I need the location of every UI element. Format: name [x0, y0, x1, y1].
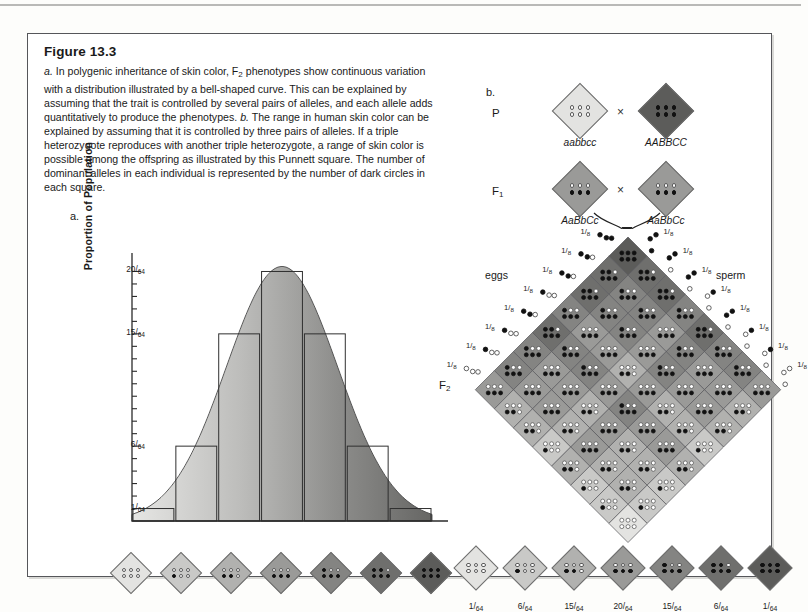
recessive-allele-dot [613, 385, 617, 389]
recessive-allele-dot [696, 404, 700, 408]
dominant-allele-dot [658, 448, 662, 452]
f1-generation-label: F1 [492, 185, 503, 199]
recessive-allele-dot [172, 568, 176, 572]
recessive-allele-dot [530, 569, 534, 573]
recessive-allele-dot [702, 404, 706, 408]
recessive-allele-dot [550, 404, 554, 408]
egg-gamete-allele-dot [590, 255, 595, 260]
recessive-allele-dot [632, 448, 636, 452]
figure-box: Figure 13.3 a. In polygenic inheritance … [27, 33, 772, 577]
recessive-allele-dot [626, 289, 630, 293]
recessive-allele-dot [683, 308, 687, 312]
recessive-allele-dot [515, 563, 519, 567]
dominant-allele-dot [626, 334, 630, 338]
dominant-allele-dot [524, 391, 528, 395]
dominant-allele-dot [379, 568, 383, 572]
punnett-square: 1/81/81/81/81/81/81/81/81/81/81/81/81/81… [453, 227, 803, 547]
recessive-allele-dot [690, 467, 694, 471]
recessive-allele-dot [575, 461, 579, 465]
phenotype-cell [116, 558, 146, 592]
dominant-allele-dot [690, 353, 694, 357]
dominant-allele-dot [511, 410, 515, 414]
dominant-allele-dot [621, 569, 625, 573]
dominant-allele-dot [620, 448, 624, 452]
f1-genotype-right: AaBbCc [630, 215, 702, 226]
recessive-allele-dot [136, 568, 140, 572]
dominant-allele-dot [664, 105, 669, 110]
recessive-allele-dot [582, 327, 586, 331]
phenotype-cell: 15/64 [558, 552, 590, 612]
recessive-allele-dot [690, 385, 694, 389]
allele-dots [416, 558, 446, 588]
eggs-label-text: eggs [485, 269, 508, 281]
dominant-allele-dot [422, 574, 426, 578]
dominant-allele-dot [696, 327, 700, 331]
dominant-allele-dot [582, 486, 586, 490]
recessive-allele-dot [632, 365, 636, 369]
recessive-allele-dot [651, 308, 655, 312]
phenotype-ratio: 20/64 [607, 601, 639, 612]
egg-gamete-allele-dot [560, 271, 565, 276]
sperm-gamete-frequency: 1/8 [759, 322, 769, 332]
dominant-allele-dot [670, 448, 674, 452]
dominant-allele-dot [726, 569, 730, 573]
recessive-allele-dot [122, 568, 126, 572]
sperm-gamete-allele-dot [649, 248, 654, 253]
dominant-allele-dot [620, 486, 624, 490]
recessive-allele-dot [702, 448, 706, 452]
figure-title: Figure 13.3 [44, 44, 444, 59]
dominant-allele-dot [620, 327, 624, 331]
recessive-allele-dot [696, 365, 700, 369]
recessive-allele-dot [621, 563, 625, 567]
recessive-allele-dot [594, 289, 598, 293]
dominant-allele-dot [607, 391, 611, 395]
recessive-allele-dot [626, 327, 630, 331]
allele-dots [558, 552, 590, 584]
caption-run: The range in human skin color can be exp… [44, 111, 429, 193]
ratio-denominator: 64 [721, 605, 729, 612]
dominant-allele-dot [664, 190, 669, 195]
dominant-allele-dot [537, 353, 541, 357]
recessive-allele-dot [588, 480, 592, 484]
recessive-allele-dot [564, 563, 568, 567]
dominant-allele-dot [670, 372, 674, 376]
dominant-allele-dot [768, 569, 772, 573]
allele-dots [560, 169, 600, 209]
dominant-allele-dot [658, 410, 662, 414]
phenotype-diamond [560, 169, 600, 209]
dominant-allele-dot [588, 289, 592, 293]
recessive-allele-dot [607, 385, 611, 389]
dominant-allele-dot [768, 563, 772, 567]
dominant-allele-dot [505, 365, 509, 369]
dominant-allele-dot [531, 391, 535, 395]
egg-gamete-allele-dot [528, 312, 533, 317]
recessive-allele-dot [620, 365, 624, 369]
recessive-allele-dot [613, 499, 617, 503]
recessive-allele-dot [626, 525, 630, 529]
recessive-allele-dot [601, 385, 605, 389]
phenotype-cell [166, 558, 196, 592]
dominant-allele-dot [594, 334, 598, 338]
recessive-allele-dot [570, 183, 575, 188]
recessive-allele-dot [626, 442, 630, 446]
recessive-allele-dot [651, 385, 655, 389]
sperm-gamete-allele-dot [782, 370, 787, 375]
dominant-allele-dot [620, 289, 624, 293]
dominant-allele-dot [550, 410, 554, 414]
recessive-allele-dot [766, 385, 770, 389]
sperm-gamete-allele-dot [724, 313, 729, 318]
dominant-allele-dot [690, 315, 694, 319]
phenotype-cell [366, 558, 396, 592]
dominant-allele-dot [563, 429, 567, 433]
dominant-allele-dot [709, 372, 713, 376]
dominant-allele-dot [582, 296, 586, 300]
dominant-allele-dot [626, 296, 630, 300]
recessive-allele-dot [626, 365, 630, 369]
recessive-allele-dot [639, 423, 643, 427]
dominant-allele-dot [620, 251, 624, 255]
recessive-allele-dot [747, 410, 751, 414]
phenotype-diamond [116, 558, 146, 588]
sperm-gamete-allele-dot [743, 332, 748, 337]
dominant-allele-dot [601, 276, 605, 280]
tick-denominator: 64 [138, 443, 145, 450]
